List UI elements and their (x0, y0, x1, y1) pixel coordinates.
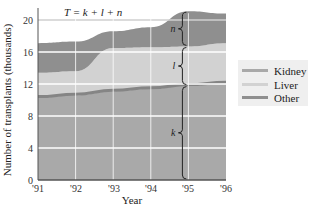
other-swatch (242, 96, 268, 99)
y-tick-20: 20 (23, 15, 33, 26)
x-tick-91: '91 (32, 183, 44, 194)
legend-item-other: Other (242, 91, 299, 104)
y-axis-label: Number of transplants (thousands) (1, 23, 14, 176)
legend: Kidney Liver Other (238, 60, 308, 106)
x-tick-94: '94 (145, 183, 157, 194)
legend-label-other: Other (274, 92, 299, 104)
formula-annotation: T = k + l + n (64, 6, 123, 18)
y-tick-12: 12 (23, 79, 33, 90)
y-tick-4: 4 (28, 143, 33, 154)
y-tick-8: 8 (28, 111, 33, 122)
legend-item-liver: Liver (242, 78, 298, 91)
x-tick-93: '93 (108, 183, 120, 194)
kidney-swatch (242, 69, 268, 72)
y-tick-16: 16 (23, 47, 33, 58)
legend-label-liver: Liver (274, 79, 298, 91)
legend-label-kidney: Kidney (274, 65, 306, 77)
x-tick-95: '95 (182, 183, 194, 194)
brace-l-label: l (173, 60, 176, 71)
kidney-area (38, 83, 226, 180)
x-tick-96: '96 (220, 183, 232, 194)
legend-item-kidney: Kidney (242, 64, 306, 77)
x-axis-label: Year (122, 194, 143, 206)
plot-areas (38, 11, 226, 180)
brace-k-label: k (171, 127, 176, 138)
liver-swatch (242, 83, 268, 86)
brace-n-label: n (170, 23, 175, 34)
x-tick-92: '92 (70, 183, 82, 194)
